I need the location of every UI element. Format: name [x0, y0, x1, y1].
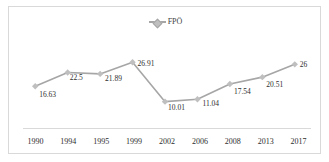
data-point-marker [97, 71, 103, 77]
data-point-marker [227, 81, 233, 87]
x-axis-tick-2008: 2008 [216, 134, 249, 150]
series-line-fpoe [35, 62, 295, 101]
data-point-marker [194, 96, 200, 102]
x-axis-tick-1994: 1994 [52, 134, 85, 150]
data-point-label: 20.51 [266, 81, 283, 89]
data-point-marker [259, 74, 265, 80]
data-point-label: 26 [300, 61, 308, 69]
x-axis-tick-labels: 199019941995199920022006200820132017 [19, 134, 315, 150]
data-point-label: 16.63 [39, 91, 56, 99]
data-point-label: 11.04 [202, 100, 219, 108]
x-axis-tick-1990: 1990 [19, 134, 52, 150]
chart-container: FPÖ 16.6322.521.8926.9110.0111.0417.5420… [8, 6, 321, 154]
x-axis-tick-1999: 1999 [118, 134, 151, 150]
plot-area: FPÖ 16.6322.521.8926.9110.0111.0417.5420… [9, 7, 322, 155]
data-point-label: 10.01 [168, 104, 185, 112]
data-point-label: 26.91 [138, 60, 155, 68]
data-point-marker [292, 61, 298, 67]
x-axis-line [23, 128, 311, 129]
data-point-label: 21.89 [105, 75, 122, 83]
x-axis-tick-2017: 2017 [282, 134, 315, 150]
x-axis-tick-2013: 2013 [249, 134, 282, 150]
x-axis-tick-2002: 2002 [151, 134, 184, 150]
x-axis-tick-1995: 1995 [85, 134, 118, 150]
data-point-label: 17.54 [234, 88, 251, 96]
series-markers [32, 59, 298, 105]
data-point-marker [32, 83, 38, 89]
x-axis-tick-2006: 2006 [183, 134, 216, 150]
data-point-label: 22.5 [70, 74, 83, 82]
